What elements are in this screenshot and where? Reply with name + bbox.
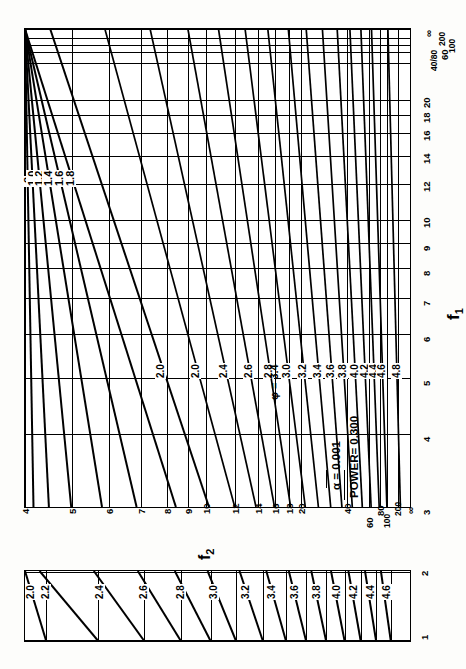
curve-label-4.6-19: 4.6: [376, 363, 387, 379]
bottom-curve-label-3.0: 3.0: [208, 584, 219, 600]
curve-phi-4.4: [361, 29, 379, 507]
bottom-curve-label-3.2: 3.2: [240, 584, 251, 600]
f1-tick-∞: ∞: [423, 30, 434, 37]
bottom-curve-label-2.6: 2.6: [138, 584, 149, 600]
f1-axis-title: f1: [444, 308, 465, 320]
bottom-curve-phi-4.0: [331, 571, 345, 641]
f2-tick-100: 100: [382, 514, 392, 528]
bottom-curve-phi-4.6: [381, 571, 391, 641]
gridline-f2-∞: [410, 29, 411, 507]
alpha-annotation: α = 0.001: [330, 441, 342, 490]
power-rule: [344, 470, 345, 500]
f1-tick-3: 3: [421, 510, 432, 515]
f1-tick-200: 200: [437, 32, 447, 46]
bottom-curve-phi-3.8: [311, 571, 326, 641]
f2-tick-200: 200: [393, 502, 403, 516]
bottom-curve-label-3.4: 3.4: [266, 584, 277, 600]
bottom-chart-panel: [24, 570, 411, 642]
bottom-curve-label-2.8: 2.8: [175, 584, 186, 600]
f1-tick-6: 6: [421, 337, 432, 342]
curve-phi-1.6: [25, 29, 137, 507]
curve-label-3.6-14: 3.6: [325, 363, 336, 379]
f1-tick-16: 16: [421, 131, 432, 142]
bottom-tick-2: 2: [419, 571, 430, 576]
f2-tick-20: 20: [296, 503, 307, 514]
f2-tick-12: 12: [230, 503, 241, 514]
f2-tick-9: 9: [183, 509, 194, 514]
bottom-curve-label-2.4: 2.4: [94, 584, 105, 600]
curve-label-1.6-4: 1.6: [53, 170, 65, 187]
curve-phi-2.4: [150, 29, 256, 507]
f2-tick-4: 4: [20, 509, 31, 514]
bottom-curve-label-4.2: 4.2: [348, 584, 359, 600]
f1-tick-20: 20: [421, 97, 432, 108]
curve-label-3.8-15: 3.8: [337, 363, 348, 379]
bottom-curve-phi-3.4: [266, 571, 286, 641]
curve-phi-4.6: [372, 29, 387, 507]
f1-tick-5: 5: [421, 381, 432, 386]
bottom-curve-lines: [25, 571, 410, 641]
f2-tick-60: 60: [364, 517, 375, 528]
bottom-curve-label-4.6: 4.6: [381, 584, 392, 600]
bottom-curve-label-4.4: 4.4: [365, 584, 376, 600]
bottom-curve-phi-3.2: [240, 571, 263, 641]
power-chart-figure: .81.01.21.41.61.82.02.02.42.62.83.03.23.…: [0, 0, 466, 669]
f2-tick-6: 6: [104, 509, 115, 514]
f1-tick-14: 14: [421, 153, 432, 164]
f2-tick-40: 40: [342, 503, 353, 514]
bottom-curve-phi-2.0: [25, 571, 46, 641]
curve-label-2.6-9: 2.6: [243, 363, 254, 379]
bottom-curve-label-2.0: 2.0: [25, 584, 36, 600]
f1-tick-10: 10: [421, 218, 432, 229]
power-annotation: POWER= 0.300: [348, 416, 360, 498]
f2-tick-18: 18: [284, 503, 295, 514]
f2-tick-14: 14: [253, 503, 264, 514]
alpha-rule: [326, 470, 327, 488]
curve-label-3.2-12: 3.2: [297, 363, 308, 379]
bottom-curve-label-3.8: 3.8: [311, 584, 322, 600]
curve-label-1.8-5: 1.8: [64, 170, 76, 187]
bottom-curve-phi-2.6: [138, 571, 181, 641]
bottom-curve-label-4.0: 4.0: [331, 584, 342, 600]
f1-tick-18: 18: [421, 112, 432, 123]
f2-tick-10: 10: [201, 503, 212, 514]
curve-phi-2.0: [50, 29, 209, 507]
curve-phi-4.8: [388, 29, 401, 507]
bottom-curve-phi-2.8: [175, 571, 211, 641]
bottom-curve-phi-2.4: [94, 571, 145, 641]
curve-phi-2.0: [105, 29, 235, 507]
f2-tick-∞: ∞: [405, 507, 416, 514]
f1-tick-7: 7: [421, 301, 432, 306]
f1-tick-9: 9: [421, 245, 432, 250]
f2-tick-7: 7: [136, 509, 147, 514]
bottom-curve-phi-3.0: [208, 571, 236, 641]
bottom-curve-phi-4.4: [365, 571, 376, 641]
f1-tick-40/80: 40/80: [429, 49, 439, 70]
f1-tick-8: 8: [421, 271, 432, 276]
bottom-curve-phi-2.2: [40, 571, 99, 641]
curve-label-2.4-8: 2.4: [218, 363, 229, 379]
bottom-curve-label-2.2: 2.2: [40, 584, 51, 600]
f1-tick-12: 12: [421, 181, 432, 192]
bottom-curve-phi-4.2: [348, 571, 360, 641]
f1-tick-4: 4: [421, 437, 432, 442]
curve-phi-2.6: [188, 29, 275, 507]
phi-marker-label: φ = 3.4: [268, 364, 280, 400]
f2-axis-title: f2: [196, 549, 216, 560]
curve-label-4.8-20: 4.8: [391, 363, 402, 379]
f2-tick-8: 8: [162, 509, 173, 514]
curve-label-3.0-11: 3.0: [281, 363, 292, 379]
f1-tick-100: 100: [447, 39, 457, 53]
bottom-curve-label-3.6: 3.6: [289, 584, 300, 600]
curve-label-3.4-13: 3.4: [312, 363, 323, 379]
bottom-tick-1: 1: [419, 635, 430, 640]
curve-label-2.0-6: 2.0: [155, 363, 166, 379]
curve-label-2.0-7: 2.0: [190, 363, 201, 379]
f2-tick-16: 16: [270, 503, 281, 514]
f2-tick-5: 5: [67, 509, 78, 514]
bottom-curve-phi-3.6: [289, 571, 306, 641]
